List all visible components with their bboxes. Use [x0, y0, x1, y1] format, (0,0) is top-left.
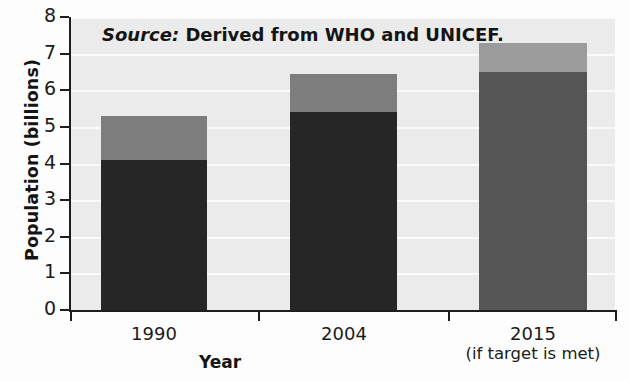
bar-segment-lower [290, 112, 397, 310]
y-tick [60, 199, 69, 201]
y-tick [60, 89, 69, 91]
x-tick-label-1990: 1990 [54, 324, 254, 345]
x-tick-label-2015: 2015(if target is met) [433, 324, 629, 364]
bar-segment-upper [290, 74, 397, 112]
x-tick-sublabel: (if target is met) [433, 345, 629, 364]
x-tick-label-2004: 2004 [244, 324, 444, 345]
bar-2015 [479, 43, 587, 310]
plot-area [70, 17, 615, 311]
source-label: Source: [102, 24, 179, 45]
y-tick [60, 16, 69, 18]
y-axis-line [69, 17, 71, 312]
x-tick [258, 310, 260, 321]
y-tick-label: 3 [0, 187, 56, 209]
bar-segment-upper [101, 116, 207, 160]
x-tick [615, 310, 617, 321]
y-tick-label: 0 [0, 297, 56, 319]
source-annotation: Source: Derived from WHO and UNICEF. [102, 24, 504, 45]
x-axis-title: Year [0, 352, 440, 372]
y-tick-label: 5 [0, 114, 56, 136]
bar-segment-lower [479, 72, 587, 310]
bar-1990 [101, 116, 207, 310]
y-tick [60, 309, 69, 311]
gridline [70, 17, 615, 19]
y-tick-label: 7 [0, 41, 56, 63]
y-tick-label: 8 [0, 4, 56, 26]
bar-segment-upper [479, 43, 587, 72]
x-tick [448, 310, 450, 321]
y-tick [60, 126, 69, 128]
y-tick-label: 4 [0, 151, 56, 173]
y-tick-label: 1 [0, 260, 56, 282]
y-tick [60, 163, 69, 165]
y-tick [60, 53, 69, 55]
y-tick-label: 2 [0, 224, 56, 246]
bar-2004 [290, 74, 397, 310]
y-tick-label: 6 [0, 77, 56, 99]
source-text: Derived from WHO and UNICEF. [179, 24, 504, 45]
x-tick [70, 310, 72, 321]
y-tick [60, 236, 69, 238]
y-tick [60, 272, 69, 274]
x-axis-line [69, 310, 616, 312]
bar-chart: Population (billions) Source: Derived fr… [0, 0, 629, 381]
bar-segment-lower [101, 160, 207, 310]
